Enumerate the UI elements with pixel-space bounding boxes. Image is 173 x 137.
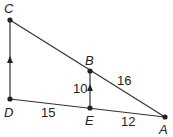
point-B — [87, 68, 92, 73]
segment-CA — [10, 20, 165, 117]
length-DE: 15 — [41, 105, 55, 120]
point-D — [7, 96, 12, 101]
label-D: D — [4, 105, 13, 120]
length-BA: 16 — [117, 73, 131, 88]
label-B: B — [85, 53, 94, 68]
length-BE: 10 — [73, 81, 87, 96]
label-A: A — [158, 122, 168, 137]
diagram-canvas: C D B E A 10 16 15 12 — [0, 0, 173, 137]
point-A — [162, 114, 167, 119]
label-C: C — [4, 1, 14, 16]
parallel-arrow-icon — [87, 84, 93, 91]
point-E — [87, 105, 92, 110]
triangle-diagram: C D B E A 10 16 15 12 — [0, 0, 173, 137]
length-EA: 12 — [121, 114, 135, 129]
label-E: E — [85, 113, 94, 128]
point-C — [7, 17, 12, 22]
parallel-arrow-icon — [7, 56, 13, 63]
